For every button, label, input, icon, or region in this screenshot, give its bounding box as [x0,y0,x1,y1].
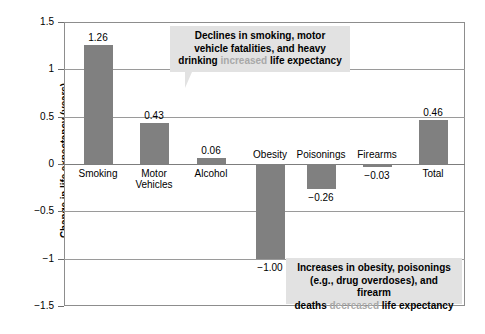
bar [363,164,392,167]
y-axis-tick [58,211,64,212]
bar [84,45,113,164]
annotation-line: Increases in obesity, poisonings [292,262,456,275]
bar [419,120,448,164]
bar [256,164,285,259]
y-axis-tick-label: −0.5 [0,206,54,216]
annotation-pointer-icon [185,72,192,88]
y-axis-tick [58,306,64,307]
annotation-line: vehicle fatalities, and heavy [176,43,344,56]
annotation-emphasis: decreased [330,300,379,311]
annotation-positive-factors: Declines in smoking, motorvehicle fatali… [170,26,350,72]
annotation-emphasis: increased [221,55,268,66]
annotation-text: life expectancy [267,55,341,66]
y-axis-tick-label: −1 [0,254,54,264]
y-axis-tick-label: 0 [0,159,54,169]
chart-screenshot: Change in life expectancy (years) 1.510.… [0,0,485,334]
y-axis-tick [58,22,64,23]
y-axis-tick-label: 1 [0,64,54,74]
bar [197,158,226,164]
annotation-line: Declines in smoking, motor [176,30,344,43]
y-axis-tick-label: −1.5 [0,301,54,311]
y-axis-tick [58,69,64,70]
category-label: Alcohol [173,168,249,179]
category-label: Total [395,168,471,179]
y-axis-tick [58,259,64,260]
annotation-line: deaths decreased life expectancy [292,300,456,313]
annotation-text: deaths [295,300,330,311]
bar-value-label: 1.26 [68,32,128,43]
bar-value-label: 0.43 [124,110,184,121]
y-axis-tick [58,164,64,165]
category-label: Firearms [339,149,415,160]
annotation-line: (e.g., drug overdoses), and firearm [292,275,456,300]
annotation-text: Increases in obesity, poisonings [297,262,451,273]
bar [140,123,169,164]
bar-value-label: −0.26 [291,192,351,203]
bar [307,164,336,189]
y-axis-tick [58,117,64,118]
bar-value-label: 0.46 [403,107,463,118]
y-axis-tick-label: 0.5 [0,112,54,122]
annotation-text: drinking [178,55,220,66]
annotation-text: vehicle fatalities, and heavy [194,43,326,54]
annotation-text: Declines in smoking, motor [195,30,326,41]
y-axis-tick-label: 1.5 [0,17,54,27]
annotation-text: (e.g., drug overdoses), and firearm [310,275,438,299]
annotation-text: life expectancy [379,300,453,311]
annotation-negative-factors: Increases in obesity, poisonings(e.g., d… [286,258,462,304]
annotation-line: drinking increased life expectancy [176,55,344,68]
